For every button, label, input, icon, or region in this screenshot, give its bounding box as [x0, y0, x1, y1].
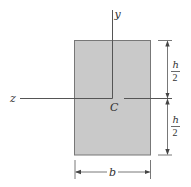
- centroid-label: C: [110, 101, 119, 114]
- lower-height-numerator: h: [173, 114, 179, 125]
- y-axis-label: y: [114, 8, 122, 21]
- width-label: b: [109, 166, 116, 179]
- z-axis-label: z: [9, 92, 16, 105]
- cross-section-diagram: y z C h 2 h 2 b: [0, 0, 191, 187]
- upper-height-denominator: 2: [173, 72, 178, 83]
- lower-height-denominator: 2: [173, 127, 178, 138]
- upper-height-numerator: h: [173, 59, 179, 70]
